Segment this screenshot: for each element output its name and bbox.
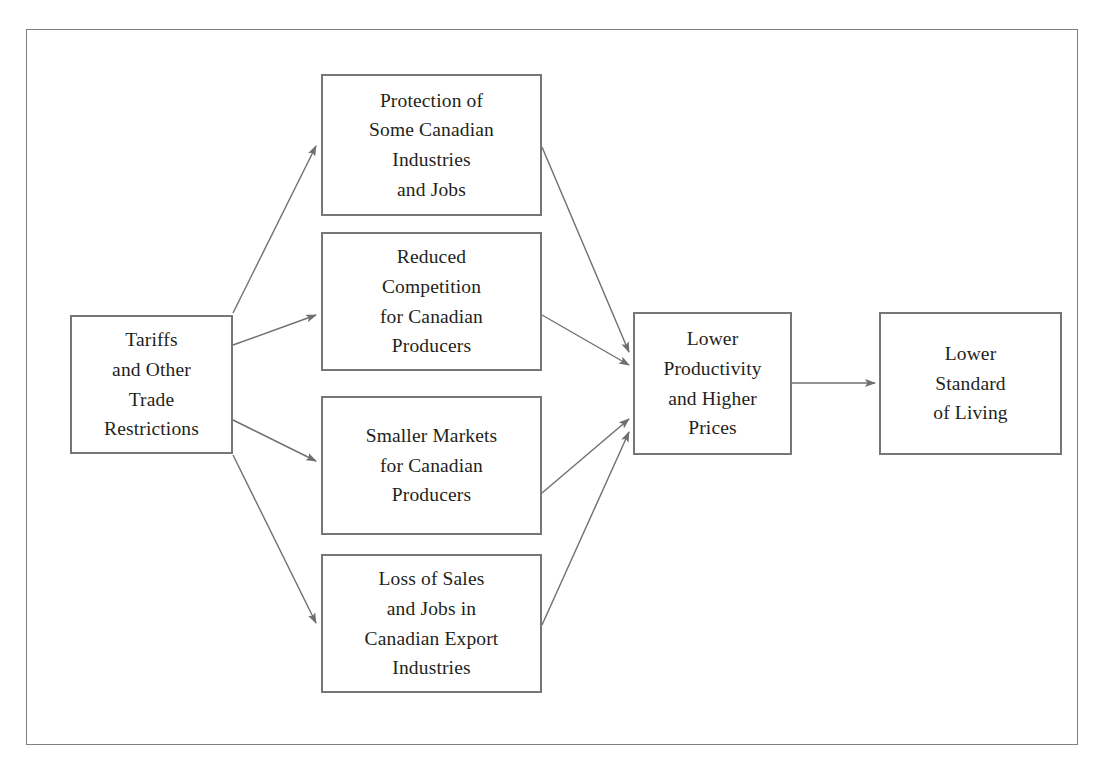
node-line: and Higher: [668, 384, 757, 414]
node-line: Competition: [382, 272, 481, 302]
node-line: Lower: [687, 324, 739, 354]
node-line: Protection of: [380, 86, 483, 116]
node-lower-productivity-and-higher-prices: Lower Productivity and Higher Prices: [633, 312, 792, 455]
node-line: Producers: [392, 480, 471, 510]
node-line: for Canadian: [380, 451, 483, 481]
node-line: Trade: [129, 385, 175, 415]
node-line: Tariffs: [125, 325, 177, 355]
figure-root: Tariffs and Other Trade Restrictions Pro…: [0, 0, 1105, 774]
node-line: Reduced: [397, 242, 466, 272]
node-smaller-markets-for-canadian-producers: Smaller Markets for Canadian Producers: [321, 396, 542, 535]
node-line: Canadian Export: [365, 624, 499, 654]
node-reduced-competition-for-canadian-producers: Reduced Competition for Canadian Produce…: [321, 232, 542, 371]
node-line: Restrictions: [104, 414, 199, 444]
node-loss-of-sales-and-jobs-in-canadian-export-industries: Loss of Sales and Jobs in Canadian Expor…: [321, 554, 542, 693]
node-line: and Jobs: [397, 175, 466, 205]
node-line: Standard: [935, 369, 1006, 399]
node-line: Producers: [392, 331, 471, 361]
node-tariffs-and-other-trade-restrictions: Tariffs and Other Trade Restrictions: [70, 315, 233, 454]
node-line: Loss of Sales: [379, 564, 485, 594]
node-line: for Canadian: [380, 302, 483, 332]
node-line: Industries: [392, 653, 470, 683]
node-line: Productivity: [663, 354, 761, 384]
node-line: of Living: [933, 398, 1007, 428]
node-lower-standard-of-living: Lower Standard of Living: [879, 312, 1062, 455]
node-line: Smaller Markets: [366, 421, 498, 451]
node-line: Lower: [945, 339, 997, 369]
node-line: and Jobs in: [387, 594, 476, 624]
node-protection-of-some-canadian-industries-and-jobs: Protection of Some Canadian Industries a…: [321, 74, 542, 216]
node-line: Some Canadian: [369, 115, 494, 145]
node-line: Industries: [392, 145, 470, 175]
node-line: and Other: [112, 355, 191, 385]
node-line: Prices: [688, 413, 737, 443]
